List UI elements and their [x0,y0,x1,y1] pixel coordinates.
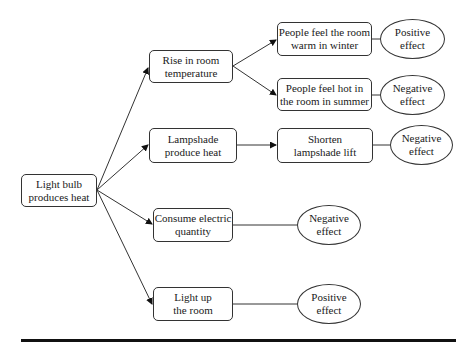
node-rise-in-room-temperature: Rise in room temperature [149,50,233,83]
node-light-bulb-produces-heat: Light bulb produces heat [21,174,97,207]
effect-label-line2: effect [317,225,342,237]
node-consume-electric-quantity: Consume electric quantity [153,208,233,242]
effect-positive-warm-winter: Positive effect [380,19,445,59]
effect-label-line1: Positive [395,26,430,38]
effect-label-line1: Negative [393,82,433,94]
node-label-line1: Shorten [308,133,342,145]
node-label-line1: People feel the room [279,26,370,38]
node-label-line2: temperature [165,67,218,79]
node-label-line2: produce heat [165,146,222,158]
effect-negative-hot-summer: Negative effect [380,75,445,115]
node-people-feel-hot-in-summer: People feel hot in the room in summer [277,78,372,111]
node-label-line1: Light bulb [36,178,82,190]
effect-label-line2: effect [400,39,425,51]
effect-positive-light: Positive effect [297,284,361,324]
bottom-rule [21,339,456,342]
node-label-line2: quantity [175,225,211,237]
node-label-line1: Consume electric [155,212,232,224]
node-label-line1: People feel hot in [286,82,363,94]
node-label-line2: lampshade lift [294,146,357,158]
node-label-line2: warm in winter [291,39,358,51]
node-people-feel-room-warm-in-winter: People feel the room warm in winter [277,22,372,56]
effect-negative-electricity: Negative effect [297,205,361,245]
effect-label-line1: Negative [309,212,349,224]
node-label-line2: the room in summer [280,95,369,107]
effect-label-line1: Positive [311,291,346,303]
effect-label-line2: effect [400,95,425,107]
node-label-line1: Rise in room [163,54,220,66]
node-lampshade-produce-heat: Lampshade produce heat [149,128,237,163]
node-label-line2: the room [173,304,212,316]
node-label-line1: Lampshade [168,133,219,145]
node-light-up-the-room: Light up the room [153,287,233,321]
node-label-line1: Light up [174,291,212,303]
effect-label-line2: effect [409,145,434,157]
node-shorten-lampshade-lift: Shorten lampshade lift [277,128,373,163]
effect-label-line1: Negative [402,132,442,144]
effect-negative-lampshade: Negative effect [390,125,453,165]
effect-label-line2: effect [317,304,342,316]
node-label-line2: produces heat [29,191,90,203]
